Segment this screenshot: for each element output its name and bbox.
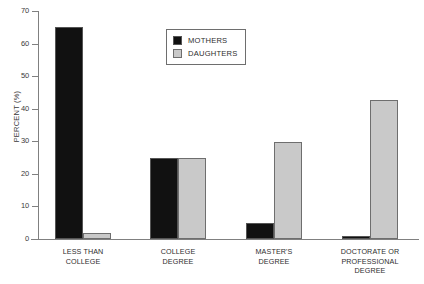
legend-swatch-icon-mothers (173, 36, 182, 45)
chart-legend: MOTHERSDAUGHTERS (166, 29, 246, 65)
legend-label: DAUGHTERS (188, 49, 237, 58)
y-axis-tick-label: 50 (3, 72, 29, 80)
legend-item-daughters: DAUGHTERS (173, 47, 237, 60)
bar-daughters-2 (274, 142, 302, 239)
x-axis-line (31, 239, 419, 240)
bar-mothers-1 (150, 158, 178, 239)
bar-mothers-2 (246, 223, 274, 239)
legend-swatch-icon-daughters (173, 49, 182, 58)
x-axis-label-0: LESS THAN COLLEGE (35, 247, 131, 266)
x-axis-label-2: MASTER'S DEGREE (226, 247, 322, 266)
legend-item-mothers: MOTHERS (173, 34, 237, 47)
y-axis-tick-label: 70 (3, 7, 29, 15)
y-axis-tick-label: 60 (3, 40, 29, 48)
y-axis-tick-label: 10 (3, 202, 29, 210)
bar-daughters-3 (370, 100, 398, 239)
chart-container: 010203040506070 PERCENT (%) LESS THAN CO… (0, 0, 424, 284)
x-axis-label-3: DOCTORATE OR PROFESSIONAL DEGREE (322, 247, 418, 276)
y-axis-tick (32, 239, 38, 240)
x-axis-label-1: COLLEGE DEGREE (130, 247, 226, 266)
y-axis-title: PERCENT (%) (12, 82, 21, 152)
legend-label: MOTHERS (188, 36, 227, 45)
bar-mothers-3 (342, 236, 370, 239)
bar-daughters-1 (178, 158, 206, 239)
bar-mothers-0 (55, 27, 83, 239)
bar-daughters-0 (83, 233, 111, 240)
y-axis-tick-label: 20 (3, 170, 29, 178)
y-axis-tick-label: 0 (3, 235, 29, 243)
